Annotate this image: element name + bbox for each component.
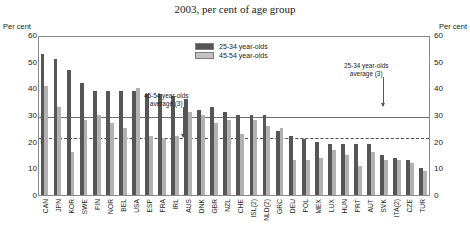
- x-label-SVK: SVK: [380, 199, 387, 213]
- y-tick-l-10: 10: [13, 165, 37, 173]
- bar-group: [302, 37, 310, 195]
- x-label-FIN: FIN: [94, 199, 101, 210]
- bar-group: [197, 37, 205, 195]
- x-label-FRA: FRA: [159, 199, 166, 213]
- y-tick-l-20: 20: [13, 139, 37, 147]
- bar-ISL2-45-54: [253, 120, 257, 195]
- y-tick-r-0: 0: [434, 192, 458, 200]
- x-label-ITA2: ITA(2): [393, 199, 400, 217]
- y-tick-l-40: 40: [13, 85, 37, 93]
- legend-label-25-34: 25-34 year-olds: [219, 43, 268, 50]
- x-label-MEX: MEX: [315, 199, 322, 214]
- bar-CHE-45-54: [240, 134, 244, 195]
- x-label-HUN: HUN: [341, 199, 348, 214]
- annotation-line2: average (3): [144, 100, 188, 108]
- bar-ESP-45-54: [149, 136, 153, 195]
- bar-POL-45-54: [306, 160, 310, 195]
- bar-KOR-45-54: [71, 152, 75, 195]
- bar-NZL-45-54: [227, 120, 231, 195]
- x-label-DEU: DEU: [289, 199, 296, 213]
- bar-HUN-45-54: [345, 155, 349, 195]
- x-label-DNK: DNK: [198, 199, 205, 213]
- bar-group: [67, 37, 75, 195]
- bar-group: [236, 37, 244, 195]
- x-label-CZE: CZE: [406, 199, 413, 213]
- annotation-arrow-avg-25-34: [383, 77, 384, 106]
- x-label-AUT: AUT: [367, 199, 374, 213]
- bar-group: [393, 37, 401, 195]
- x-label-PRT: PRT: [354, 199, 361, 212]
- bar-group: [354, 37, 362, 195]
- bar-group: [158, 37, 166, 195]
- x-label-NOR: NOR: [107, 199, 114, 214]
- bar-LUX-45-54: [332, 150, 336, 195]
- page-title: 2003, per cent of age group: [0, 3, 470, 15]
- y-tick-r-10: 10: [434, 165, 458, 173]
- bar-AUS-45-54: [188, 112, 192, 195]
- bar-group: [132, 37, 140, 195]
- x-label-GRC: GRC: [276, 199, 283, 214]
- bar-group: [41, 37, 49, 195]
- bar-CZE-45-54: [410, 163, 414, 195]
- y-tick-r-30: 30: [434, 112, 458, 120]
- legend-item: 25-34 year-olds: [195, 42, 268, 51]
- bar-AUT-45-54: [371, 152, 375, 195]
- legend-label-45-54: 45-54 year-olds: [219, 52, 268, 59]
- bar-group: [328, 37, 336, 195]
- bar-group: [367, 37, 375, 195]
- x-label-NZL: NZL: [224, 199, 231, 212]
- x-label-AUS: AUS: [185, 199, 192, 213]
- annotation-line2: average (3): [344, 70, 388, 78]
- bar-group: [341, 37, 349, 195]
- x-label-POL: POL: [302, 199, 309, 213]
- bar-group: [406, 37, 414, 195]
- bar-group: [184, 37, 192, 195]
- x-label-BEL: BEL: [120, 199, 127, 212]
- bar-group: [80, 37, 88, 195]
- y-tick-r-20: 20: [434, 139, 458, 147]
- legend-swatch-25-34: [195, 43, 214, 51]
- bar-NOR-45-54: [110, 123, 114, 195]
- annotation-arrow-avg-45-54: [183, 107, 184, 137]
- bar-ITA2-45-54: [397, 160, 401, 195]
- bar-USA-45-54: [136, 88, 140, 195]
- bar-group: [380, 37, 388, 195]
- bar-group: [119, 37, 127, 195]
- bar-PRT-45-54: [358, 166, 362, 195]
- legend-item: 45-54 year-olds: [195, 51, 268, 60]
- x-label-KOR: KOR: [68, 199, 75, 214]
- x-label-CHE: CHE: [237, 199, 244, 213]
- x-label-CAN: CAN: [42, 199, 49, 213]
- y-axis-label-right: Per cent: [439, 22, 467, 31]
- plot-area: [38, 36, 430, 196]
- legend-swatch-45-54: [195, 52, 214, 60]
- x-label-ISL2: ISL(2): [250, 199, 257, 218]
- y-tick-l-50: 50: [13, 59, 37, 67]
- bar-BEL-45-54: [123, 128, 127, 195]
- y-tick-r-50: 50: [434, 59, 458, 67]
- bar-group: [171, 37, 179, 195]
- bar-FIN-45-54: [97, 115, 101, 195]
- x-label-SWE: SWE: [81, 199, 88, 214]
- bar-DEU-45-54: [293, 160, 297, 195]
- bar-group: [276, 37, 284, 195]
- bar-CAN-45-54: [44, 86, 48, 195]
- bar-FRA-45-54: [162, 139, 166, 195]
- bar-group: [250, 37, 258, 195]
- bar-group: [93, 37, 101, 195]
- bar-group: [210, 37, 218, 195]
- x-label-IRL: IRL: [172, 199, 179, 210]
- annotation-line1: 45-54 year-olds: [144, 92, 188, 100]
- bar-group: [263, 37, 271, 195]
- bar-JPN-45-54: [57, 107, 61, 195]
- legend: 25-34 year-olds 45-54 year-olds: [195, 42, 268, 60]
- y-tick-l-0: 0: [13, 192, 37, 200]
- bar-group: [419, 37, 427, 195]
- bar-TUR-45-54: [423, 171, 427, 195]
- bar-MEX-45-54: [319, 158, 323, 195]
- bar-IRL-45-54: [175, 136, 179, 195]
- x-label-USA: USA: [133, 199, 140, 213]
- y-tick-r-60: 60: [434, 32, 458, 40]
- y-tick-r-40: 40: [434, 85, 458, 93]
- bar-group: [106, 37, 114, 195]
